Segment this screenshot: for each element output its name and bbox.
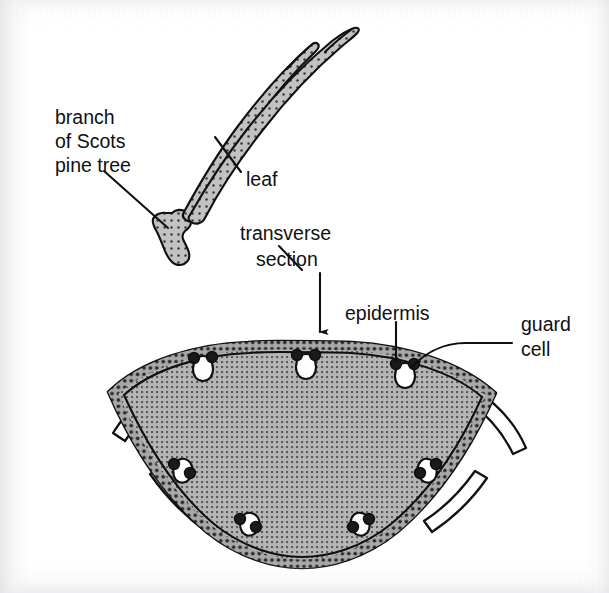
needle-leaf-outer [189, 28, 359, 224]
label-transverse-section: transverse section [240, 222, 336, 270]
label-branch-of-scots-pine-tree: branch of Scots pine tree [55, 106, 131, 176]
guard-cell [364, 514, 375, 525]
guard-cell [235, 514, 246, 525]
label-branch-line-1: branch [55, 106, 115, 128]
guard-cell [292, 350, 303, 361]
guard-cell [185, 468, 196, 479]
label-transverse-line-1: transverse [240, 222, 331, 244]
label-guard-cell-line-2: cell [521, 338, 550, 360]
guard-cell [189, 353, 200, 364]
guard-cell [251, 522, 262, 533]
label-guard-cell: guard cell [521, 313, 576, 360]
guard-cell [169, 459, 180, 470]
guard-cell [348, 522, 359, 533]
branch-leader-line [104, 171, 168, 228]
guard-cell [310, 350, 321, 361]
leaf-transverse-section [108, 341, 526, 568]
label-leaf: leaf [246, 168, 278, 190]
label-transverse-line-2: section [256, 248, 318, 270]
guard-cell [415, 468, 426, 479]
label-epidermis: epidermis [345, 302, 430, 324]
label-guard-cell-line-1: guard [521, 313, 571, 335]
guard-cell [431, 459, 442, 470]
pine-leaf-diagram: branch of Scots pine tree leaf transvers… [0, 0, 609, 593]
guard-cell [207, 352, 218, 363]
label-branch-line-3: pine tree [55, 154, 131, 176]
diagram-labels: branch of Scots pine tree leaf transvers… [55, 106, 576, 360]
label-branch-line-2: of Scots [55, 130, 126, 152]
